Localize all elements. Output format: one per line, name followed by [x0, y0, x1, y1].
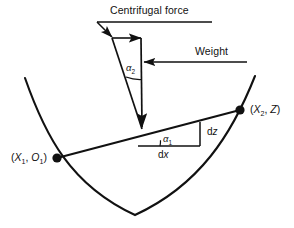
alpha2-subscript: 2	[131, 68, 135, 75]
point-left-close: )	[43, 151, 47, 163]
alpha2-label: α2	[126, 63, 135, 75]
dx-variable: x	[164, 149, 169, 160]
alpha1-label: α1	[163, 134, 172, 146]
weight-label: Weight	[195, 46, 228, 57]
centrifugal-force-arrow	[97, 22, 112, 37]
point-marker-right	[235, 105, 244, 114]
point-right-x: X	[254, 103, 261, 115]
point-right-close: )	[277, 103, 281, 115]
centrifugal-force-label: Centrifugal force	[110, 5, 189, 16]
diagram-canvas: Centrifugal force Weight α2 α1 dz dx (X1…	[0, 0, 294, 228]
point-marker-left	[52, 153, 61, 162]
resultant-force-line	[112, 38, 142, 129]
point-left-label: (X1, O1)	[11, 152, 47, 166]
alpha1-subscript: 1	[168, 139, 172, 146]
point-right-label: (X2, Z)	[250, 104, 280, 118]
dz-variable: z	[213, 126, 218, 137]
dz-label: dz	[207, 127, 218, 137]
alpha1-arc	[160, 140, 161, 146]
point-left-x: X	[15, 151, 22, 163]
dx-label: dx	[158, 150, 169, 160]
weight-vector-arrow	[141, 38, 142, 127]
alpha2-arc	[126, 77, 141, 80]
point-left-o: O	[31, 151, 39, 163]
